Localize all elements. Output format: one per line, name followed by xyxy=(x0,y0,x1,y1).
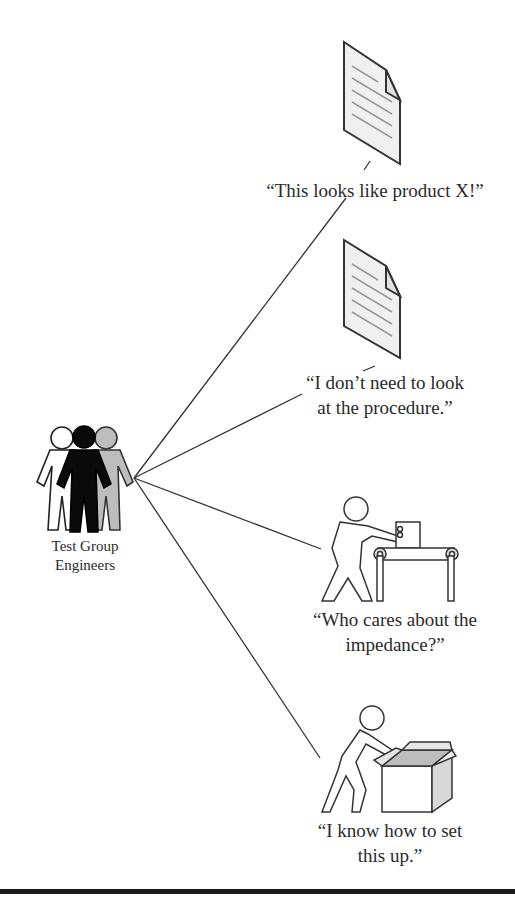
document-icon xyxy=(344,42,400,164)
caption-doc2-line2: at the procedure.” xyxy=(270,395,500,420)
bottom-divider xyxy=(0,889,515,894)
group-label-line1: Test Group xyxy=(30,537,140,556)
connector-line-1 xyxy=(134,198,346,478)
caption-conveyor-line1: “Who cares about the xyxy=(290,607,500,632)
person-opening-box-icon xyxy=(322,706,456,812)
tick-doc1 xyxy=(364,161,370,170)
test-group-figures xyxy=(37,426,133,532)
caption-doc2-line1: “I don’t need to look xyxy=(270,370,500,395)
caption-box-line2: this up.” xyxy=(300,843,480,868)
caption-doc1: “This looks like product X!” xyxy=(250,178,500,203)
diagram-canvas xyxy=(0,0,515,910)
group-label-line2: Engineers xyxy=(30,556,140,575)
person-at-conveyor-icon xyxy=(322,497,458,601)
caption-conveyor-line2: impedance?” xyxy=(290,632,500,657)
connector-lines xyxy=(134,161,375,758)
connector-line-3 xyxy=(134,478,321,549)
document-icon xyxy=(344,240,400,358)
caption-box-line1: “I know how to set xyxy=(300,818,480,843)
